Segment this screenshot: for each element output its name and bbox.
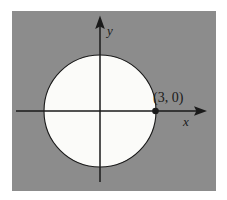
x-axis-label: x [182,114,189,129]
figure-container: y x (3, 0) [0,0,227,200]
point-marker-3-0 [152,108,159,115]
coordinate-plane-diagram: y x (3, 0) [0,0,227,200]
y-axis-label: y [105,23,113,38]
point-label-3-0: (3, 0) [153,90,184,106]
